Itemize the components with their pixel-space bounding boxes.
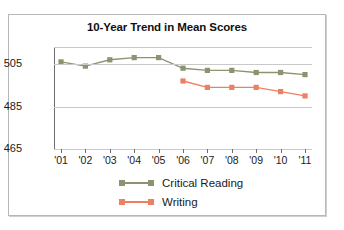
x-tick-mark — [281, 149, 282, 153]
chart-figure: 10-Year Trend in Mean Scores 465485505 '… — [8, 14, 326, 216]
x-tick-label: '03 — [98, 154, 122, 166]
x-tick-mark — [207, 149, 208, 153]
series-line — [183, 81, 305, 96]
data-point-marker — [107, 57, 112, 62]
series-lines — [54, 47, 312, 150]
data-point-marker — [254, 85, 259, 90]
data-point-marker — [180, 66, 185, 71]
x-tick-label: '07 — [195, 154, 219, 166]
legend-item[interactable]: Writing — [9, 192, 325, 211]
x-tick-label: '06 — [171, 154, 195, 166]
data-point-marker — [229, 68, 234, 73]
x-tick-mark — [159, 149, 160, 153]
x-tick-label: '01 — [49, 154, 73, 166]
data-point-marker — [302, 72, 307, 77]
legend-label: Writing — [162, 196, 198, 208]
x-tick-label: '02 — [73, 154, 97, 166]
legend-label: Critical Reading — [162, 177, 243, 189]
x-tick-mark — [232, 149, 233, 153]
x-tick-mark — [85, 149, 86, 153]
x-tick-mark — [134, 149, 135, 153]
x-tick-label: '04 — [122, 154, 146, 166]
data-point-marker — [229, 85, 234, 90]
data-point-marker — [132, 55, 137, 60]
y-axis-line — [54, 47, 55, 150]
data-point-marker — [254, 70, 259, 75]
legend-swatch-icon — [119, 178, 154, 188]
chart-title: 10-Year Trend in Mean Scores — [9, 21, 325, 33]
gridline-top — [54, 47, 312, 48]
legend-item[interactable]: Critical Reading — [9, 173, 325, 192]
y-tick-label: 485 — [0, 100, 22, 112]
y-tick-label: 505 — [0, 57, 22, 69]
data-point-marker — [302, 93, 307, 98]
y-tick-label: 465 — [0, 142, 22, 154]
gridline-485 — [54, 107, 312, 108]
x-tick-mark — [110, 149, 111, 153]
data-point-marker — [205, 85, 210, 90]
legend-swatch-icon — [119, 197, 154, 207]
data-point-marker — [278, 70, 283, 75]
x-tick-label: '10 — [269, 154, 293, 166]
x-tick-mark — [183, 149, 184, 153]
x-tick-label: '11 — [293, 154, 317, 166]
x-tick-mark — [256, 149, 257, 153]
x-tick-mark — [305, 149, 306, 153]
x-tick-label: '09 — [244, 154, 268, 166]
x-tick-mark — [61, 149, 62, 153]
gridline-505 — [54, 64, 312, 65]
data-point-marker — [278, 89, 283, 94]
data-point-marker — [180, 78, 185, 83]
plot-area — [54, 47, 312, 149]
data-point-marker — [205, 68, 210, 73]
chart-legend: Critical ReadingWriting — [9, 173, 325, 211]
data-point-marker — [156, 55, 161, 60]
x-tick-label: '08 — [220, 154, 244, 166]
x-tick-label: '05 — [147, 154, 171, 166]
